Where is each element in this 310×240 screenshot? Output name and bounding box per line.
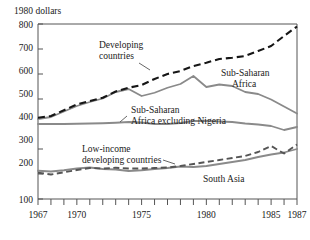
x-tick-label-1967: 1967 xyxy=(29,210,48,220)
y-tick-label-400: 400 xyxy=(19,112,34,122)
annotation-low-income-line2: developing countries xyxy=(82,155,162,165)
annotation-ssa-excluding-nigeria-line2: Africa excluding Nigeria xyxy=(131,116,227,126)
x-tick-label-1985: 1985 xyxy=(262,210,281,220)
chart-figure: 1980 dollars 800 700 600 500 400 300 200… xyxy=(0,0,310,240)
annotation-sub-saharan-africa-line1: Sub-Saharan xyxy=(221,68,270,78)
leader-line-ssa-excluding-nigeria xyxy=(120,116,127,122)
y-tick-label-800: 800 xyxy=(19,20,34,30)
x-tick-marks xyxy=(38,199,297,205)
y-tick-label-600: 600 xyxy=(19,66,34,76)
x-tick-label-1987: 1987 xyxy=(288,210,307,220)
y-tick-label-700: 700 xyxy=(19,43,34,53)
annotation-developing-countries-line1: Developing xyxy=(99,40,144,50)
annotation-south-asia: South Asia xyxy=(203,174,245,184)
x-tick-label-1970: 1970 xyxy=(67,210,86,220)
leader-line-low-income xyxy=(163,160,175,164)
annotation-sub-saharan-africa-line2: Africa xyxy=(232,79,257,89)
line-chart: 1980 dollars 800 700 600 500 400 300 200… xyxy=(0,0,310,240)
leader-line-developing-countries xyxy=(139,63,150,70)
x-tick-label-1980: 1980 xyxy=(197,210,216,220)
annotation-low-income-line1: Low-income xyxy=(82,144,131,154)
series-line-low-income-developing-countries xyxy=(38,145,297,175)
y-tick-label-200: 200 xyxy=(19,158,34,168)
x-tick-label-1975: 1975 xyxy=(132,210,151,220)
y-tick-label-300: 300 xyxy=(19,135,34,145)
y-tick-label-100: 100 xyxy=(19,195,34,205)
annotation-ssa-excluding-nigeria-line1: Sub-Saharan xyxy=(131,105,180,115)
y-axis-title: 1980 dollars xyxy=(14,6,62,16)
annotation-developing-countries-line2: countries xyxy=(99,51,134,61)
y-tick-label-500: 500 xyxy=(19,89,34,99)
